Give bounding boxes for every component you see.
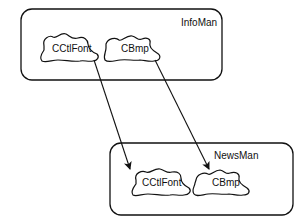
group-infoman: InfoMan CCtlFont CBmp xyxy=(21,9,222,80)
component-newsman-cctlfont: CCtlFont xyxy=(132,169,190,196)
arrow-cbmp xyxy=(155,60,209,169)
component-label: CBmp xyxy=(212,177,240,188)
diagram-canvas: InfoMan CCtlFont CBmp NewsMan CCtlFont C… xyxy=(0,0,299,224)
component-infoman-cctlfont: CCtlFont xyxy=(41,34,98,62)
arrow-cctlfont xyxy=(94,60,130,169)
component-label: CCtlFont xyxy=(142,177,182,188)
component-label: CCtlFont xyxy=(52,43,92,54)
group-newsman-label: NewsMan xyxy=(214,150,258,161)
component-newsman-cbmp: CBmp xyxy=(193,170,249,196)
group-infoman-label: InfoMan xyxy=(181,17,217,28)
component-label: CBmp xyxy=(121,43,149,54)
component-infoman-cbmp: CBmp xyxy=(104,36,160,62)
